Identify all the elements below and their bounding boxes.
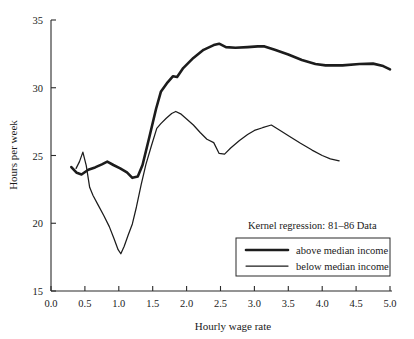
legend-label-above-median-income: above median income xyxy=(296,245,388,256)
y-tick-label: 25 xyxy=(33,151,44,162)
x-tick-label: 4.5 xyxy=(350,298,363,309)
x-tick-label: 2.0 xyxy=(180,298,193,309)
y-tick-label: 35 xyxy=(33,15,44,26)
x-tick-label: 2.5 xyxy=(214,298,227,309)
x-tick-label: 0.0 xyxy=(44,298,57,309)
y-tick-label: 15 xyxy=(33,286,44,297)
y-tick-label: 30 xyxy=(33,83,44,94)
y-axis-ticks: 1520253035 xyxy=(33,15,57,297)
chart-figure: 1520253035 0.00.51.01.52.02.53.03.54.04.… xyxy=(0,0,414,339)
y-axis-title: Hours per week xyxy=(7,120,19,190)
y-tick-label: 20 xyxy=(33,218,44,229)
x-tick-label: 1.5 xyxy=(146,298,159,309)
x-tick-label: 1.0 xyxy=(112,298,125,309)
x-tick-label: 5.0 xyxy=(383,298,396,309)
legend-caption: Kernel regression: 81–86 Data xyxy=(248,220,377,231)
x-tick-label: 3.0 xyxy=(248,298,261,309)
legend-label-below-median-income: below median income xyxy=(296,261,389,272)
x-tick-label: 3.5 xyxy=(282,298,295,309)
x-tick-label: 0.5 xyxy=(78,298,91,309)
chart-legend: above median income below median income xyxy=(236,238,390,276)
x-axis-title: Hourly wage rate xyxy=(195,320,271,332)
x-axis-ticks: 0.00.51.01.52.02.53.03.54.04.55.0 xyxy=(44,286,396,309)
line-chart: 1520253035 0.00.51.01.52.02.53.03.54.04.… xyxy=(0,0,414,339)
series-line-below-median-income xyxy=(76,111,339,253)
x-tick-label: 4.0 xyxy=(316,298,329,309)
series-line-above-median-income xyxy=(71,44,390,178)
